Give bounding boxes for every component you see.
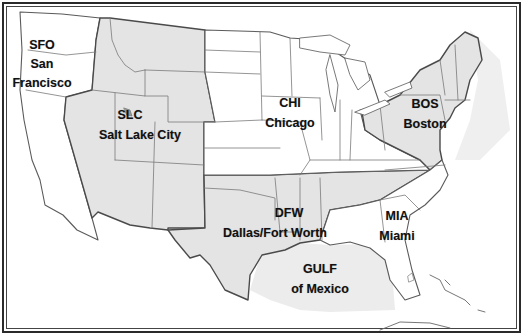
region-label-bos[interactable]: BOS Boston bbox=[395, 97, 455, 132]
region-label-chi[interactable]: CHI Chicago bbox=[255, 96, 325, 131]
region-label-mia[interactable]: MIA Miami bbox=[372, 209, 422, 244]
sfo-name-line-2: Francisco bbox=[12, 76, 72, 91]
region-label-slc[interactable]: SLC Salt Lake City bbox=[80, 108, 200, 143]
bos-name: Boston bbox=[395, 117, 455, 132]
sfo-name-line-1: San bbox=[12, 57, 72, 72]
dfw-name: Dallas/Fort Worth bbox=[205, 226, 345, 241]
region-label-dfw[interactable]: DFW Dallas/Fort Worth bbox=[205, 206, 345, 241]
mia-code: MIA bbox=[372, 209, 422, 224]
region-label-gulf[interactable]: GULF of Mexico bbox=[280, 262, 360, 297]
dfw-code: DFW bbox=[233, 206, 345, 221]
region-label-sfo[interactable]: SFO San Francisco bbox=[12, 38, 72, 91]
chi-code: CHI bbox=[255, 96, 325, 111]
bos-code: BOS bbox=[395, 97, 455, 112]
gulf-code: GULF bbox=[280, 262, 360, 277]
gulf-name: of Mexico bbox=[280, 282, 360, 297]
chi-name: Chicago bbox=[255, 116, 325, 131]
us-region-map bbox=[0, 0, 523, 335]
slc-name: Salt Lake City bbox=[80, 128, 200, 143]
mia-name: Miami bbox=[372, 229, 422, 244]
map-frame: SFO San Francisco SLC Salt Lake City CHI… bbox=[0, 0, 523, 335]
slc-code: SLC bbox=[60, 108, 200, 123]
sfo-code: SFO bbox=[12, 38, 72, 53]
